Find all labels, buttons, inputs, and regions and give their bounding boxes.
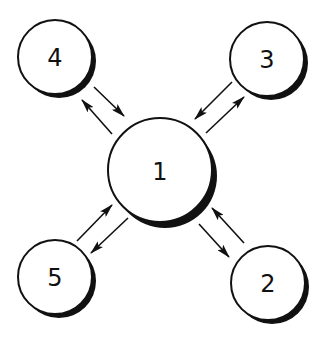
node-4-label: 4 — [47, 44, 62, 72]
hub-spoke-diagram: 4 3 5 2 1 — [0, 0, 326, 337]
arrow-1-to-2 — [199, 224, 229, 257]
arrow-5-to-1 — [77, 205, 112, 241]
node-1-hub: 1 — [108, 118, 217, 228]
node-3-label: 3 — [259, 46, 274, 74]
node-2-label: 2 — [260, 270, 275, 298]
arrow-1-to-5 — [91, 218, 128, 253]
arrow-2-to-1 — [212, 208, 244, 243]
node-4: 4 — [18, 20, 96, 98]
node-3: 3 — [230, 22, 308, 100]
arrow-1-to-4 — [82, 100, 112, 134]
node-5-label: 5 — [47, 264, 62, 292]
arrow-4-to-1 — [94, 87, 124, 116]
node-5: 5 — [18, 240, 96, 318]
node-2: 2 — [231, 246, 309, 324]
node-1-label: 1 — [152, 158, 167, 186]
